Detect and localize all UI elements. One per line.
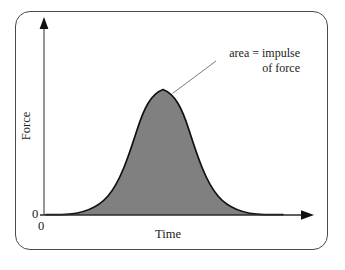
annotation-area-impulse: area = impulse of force bbox=[229, 46, 300, 77]
x-axis-label: Time bbox=[155, 228, 181, 241]
y-axis-label: Force bbox=[20, 112, 33, 140]
arrow-up-icon bbox=[40, 17, 49, 29]
arrow-right-icon bbox=[301, 210, 314, 220]
leader-line-icon bbox=[173, 61, 217, 94]
area-fill-impulse bbox=[44, 90, 283, 216]
annotation-line-2: of force bbox=[229, 61, 300, 76]
x-axis-origin-label: 0 bbox=[38, 220, 44, 233]
figure-container: Force Time 0 0 area = impulse of force bbox=[0, 0, 345, 270]
annotation-line-1: area = impulse bbox=[229, 46, 300, 61]
